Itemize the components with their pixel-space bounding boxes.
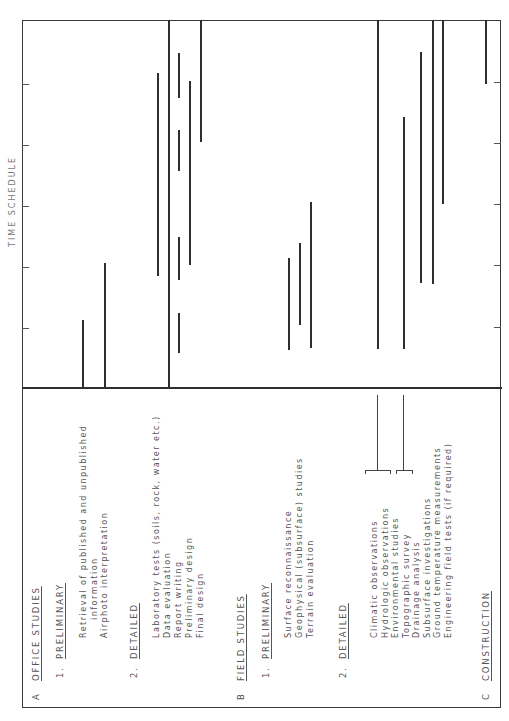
bar-retrieval: [82, 320, 84, 388]
group-detailed: DETAILED: [129, 603, 139, 659]
bar-data-evaluation: [168, 20, 170, 388]
group-detailed: DETAILED: [338, 603, 348, 659]
bracket-tip: [396, 470, 397, 474]
bracket-bar: [365, 470, 391, 471]
bar-final-design: [200, 20, 202, 142]
bracket-bar: [396, 470, 413, 471]
section-letter-b: B: [236, 692, 246, 700]
bracket-tip: [412, 470, 413, 474]
group-preliminary: PRELIMINARY: [261, 583, 271, 659]
bracket-tip: [390, 470, 391, 474]
group-number: 1.: [261, 666, 271, 678]
bar-laboratory-tests: [157, 73, 159, 276]
bar-surface-reconnaissance: [288, 258, 290, 350]
time-tick: [494, 265, 501, 266]
item-report-writing: Report writing: [174, 560, 184, 638]
bar-report-writing-seg: [178, 130, 180, 171]
bar-subsurface-investigations: [420, 52, 422, 283]
item-laboratory-tests: Laboratory tests (soils, rock, water etc…: [152, 415, 162, 638]
bar-terrain-evaluation: [310, 202, 312, 348]
item-preliminary-design: Preliminary design: [185, 537, 195, 638]
item-subsurface: Subsurface investigations: [423, 497, 433, 638]
item-final-design: Final design: [196, 572, 206, 638]
time-tick: [22, 206, 29, 207]
item-terrain-evaluation: Terrain evaluation: [306, 539, 316, 638]
group-number: 2.: [338, 666, 348, 678]
item-geophysical: Geophysical (subsurface) studies: [295, 457, 305, 638]
item-surface-reconnaissance: Surface reconnaissance: [284, 510, 294, 638]
bar-geophysical: [299, 243, 301, 325]
time-tick: [494, 204, 501, 205]
section-field-studies: FIELD STUDIES: [236, 594, 246, 681]
time-schedule-title: TIME SCHEDULE: [8, 156, 18, 247]
bar-ground-temperature: [432, 20, 434, 284]
item-topographic: Topographic survey: [402, 533, 412, 638]
group-number: 1.: [55, 666, 65, 678]
bar-report-writing-seg: [178, 53, 180, 98]
section-construction: CONSTRUCTION: [481, 591, 491, 681]
group-number: 2.: [129, 666, 139, 678]
bracket-stem: [403, 395, 404, 470]
panel-divider: [22, 387, 502, 389]
item-engineering-field-tests: Engineering field tests (if required): [444, 443, 454, 638]
item-hydrologic: Hydrologic observations: [381, 507, 391, 638]
item-ground-temperature: Ground temperature measurements: [433, 447, 443, 638]
bar-airphoto: [104, 263, 106, 388]
bar-climatic-hydrologic-environmental: [377, 20, 379, 349]
time-tick: [22, 267, 29, 268]
time-tick: [22, 84, 29, 85]
item-airphoto: Airphoto interpretation: [100, 512, 110, 638]
bar-preliminary-design: [189, 81, 191, 265]
bar-report-writing-seg: [178, 237, 180, 280]
time-tick: [494, 82, 501, 83]
item-environmental: Environmental studies: [391, 517, 401, 638]
bar-topographic-drainage: [403, 117, 405, 349]
group-preliminary: PRELIMINARY: [55, 583, 65, 659]
section-office-studies: OFFICE STUDIES: [31, 586, 41, 681]
bracket-tip: [365, 470, 366, 474]
bar-report-writing-seg: [178, 313, 180, 353]
item-climatic: Climatic observations: [370, 520, 380, 638]
time-tick: [494, 327, 501, 328]
bracket-stem: [377, 395, 378, 470]
item-retrieval: Retrieval of published and unpublished: [79, 425, 89, 638]
item-drainage: Drainage analysis: [412, 541, 422, 638]
bar-engineering-field-tests: [442, 20, 444, 204]
time-tick: [22, 145, 29, 146]
item-information: information: [90, 557, 100, 620]
section-letter-c: C: [481, 692, 491, 700]
time-tick: [494, 143, 501, 144]
item-data-evaluation: Data evaluation: [163, 552, 173, 638]
bar-construction: [485, 20, 487, 84]
time-tick: [22, 328, 29, 329]
section-letter-a: A: [31, 692, 41, 700]
